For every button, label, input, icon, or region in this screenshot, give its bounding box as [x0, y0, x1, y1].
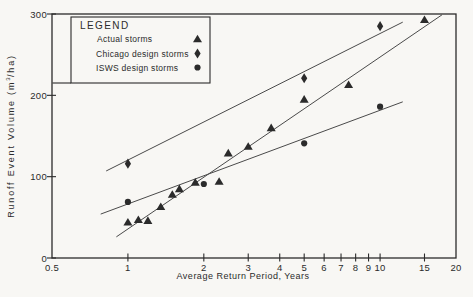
- legend-item-chicago-design-storms: Chicago design storms: [96, 49, 189, 60]
- legend-item-isws-design-storms: ISWS design storms: [96, 63, 178, 74]
- y-axis-title: Runoff Event Volume (m3/ha): [5, 54, 16, 218]
- isws-design-storms-point: [201, 181, 207, 187]
- isws-design-storms-point: [377, 104, 383, 110]
- actual-storms-point: [267, 124, 276, 132]
- actual-storms-point: [244, 142, 253, 150]
- actual-storms-point: [344, 80, 353, 88]
- y-tick-label: 200: [19, 90, 47, 101]
- figure: 0.51234567891015200100200300 Average Ret…: [0, 0, 473, 297]
- y-tick-label: 300: [19, 9, 47, 20]
- chicago-design-storms-point: [377, 21, 383, 31]
- actual-storms-point: [215, 177, 224, 185]
- actual-storms-point: [123, 218, 132, 226]
- legend-title: LEGEND: [80, 20, 130, 31]
- chart-canvas: [0, 0, 473, 297]
- actual-storms-point: [191, 178, 200, 186]
- chicago-design-storms-point: [301, 73, 307, 83]
- trend-line-isws-design-storms: [101, 102, 403, 214]
- actual-storms-point: [224, 149, 233, 157]
- y-axis-title-text: Runoff Event Volume (m: [6, 81, 16, 218]
- isws-design-storms-point: [301, 140, 307, 146]
- actual-storms-point: [420, 15, 429, 23]
- y-axis-title-superscript: 3: [5, 77, 11, 81]
- x-tick-label: 0.5: [37, 262, 67, 273]
- actual-storms-point: [300, 95, 309, 103]
- legend-item-actual-storms: Actual storms: [97, 34, 152, 45]
- legend-circle-marker-icon: [194, 64, 200, 70]
- isws-design-storms-point: [125, 199, 131, 205]
- y-tick-label: 0: [19, 253, 47, 264]
- x-tick-label: 20: [441, 262, 471, 273]
- x-tick-label: 15: [410, 262, 440, 273]
- chicago-design-storms-point: [125, 159, 131, 169]
- legend-diamond-marker-icon: [194, 48, 200, 58]
- actual-storms-point: [156, 202, 165, 210]
- y-tick-label: 100: [19, 171, 47, 182]
- y-axis-title-unit: /ha): [6, 54, 16, 77]
- x-axis-title: Average Return Period, Years: [83, 271, 403, 281]
- legend-triangle-marker-icon: [193, 35, 202, 43]
